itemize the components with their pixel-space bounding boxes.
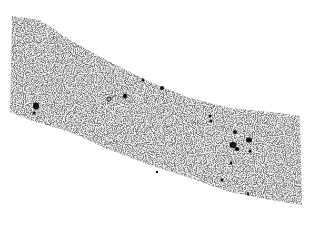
tissue-micrograph xyxy=(0,0,314,235)
